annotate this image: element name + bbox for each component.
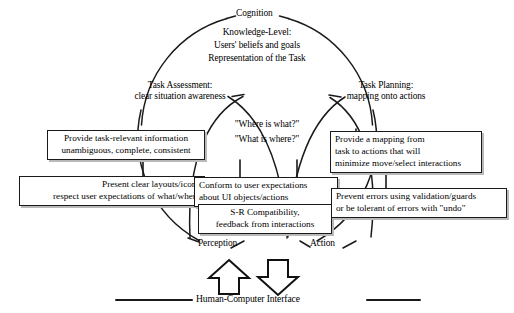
node-label-questions: "Where is what?" "What is where?" — [207, 117, 327, 146]
node-label-perception: Perception — [198, 238, 237, 248]
task-relevant-line-1: Provide task-relevant information — [52, 133, 200, 145]
arrow-down-shape — [258, 260, 298, 295]
task-planning-line-2: mapping onto actions — [336, 91, 436, 102]
box-conform-to-user-expectations: Conform to user expectations about UI ob… — [194, 177, 338, 207]
task-relevant-line-2: unambiguous, complete, consistent — [52, 145, 200, 157]
mapping-line-1: Provide a mapping from — [335, 134, 477, 146]
cognition-tick-right — [280, 16, 289, 19]
box-provide-task-relevant-information: Provide task-relevant information unambi… — [47, 130, 205, 160]
conform-line-2: about UI objects/actions — [199, 192, 333, 204]
node-label-task-assessment: Task Assessment: clear situation awarene… — [126, 80, 234, 103]
action-stub-left — [300, 241, 310, 247]
knowledge-line-1: Knowledge-Level: — [187, 26, 327, 39]
cognition-tick-left — [227, 16, 236, 19]
box-prevent-errors: Prevent errors using validation/guards o… — [331, 188, 507, 218]
task-planning-line-1: Task Planning: — [336, 80, 436, 91]
question-line-1: "Where is what?" — [207, 117, 327, 132]
action-stub-right — [343, 241, 356, 248]
task-assessment-line-1: Task Assessment: — [126, 80, 234, 91]
box-provide-mapping-task-to-actions: Provide a mapping from task to actions t… — [330, 131, 482, 173]
conform-line-1: Conform to user expectations — [199, 180, 333, 192]
mapping-line-3: minimize move/select interactions — [335, 158, 477, 170]
task-assessment-line-2: clear situation awareness — [126, 91, 234, 102]
arrow-up-shape — [209, 260, 249, 294]
box-sr-compatibility: S-R Compatibility, feedback from interac… — [198, 204, 332, 234]
node-label-human-computer-interface: Human-Computer Interface — [196, 294, 300, 304]
clear-layouts-line-2: respect user expectations of what/where — [24, 191, 200, 203]
clear-layouts-line-1: Present clear layouts/icons — [24, 179, 200, 191]
box-present-clear-layouts: Present clear layouts/icons respect user… — [19, 176, 205, 206]
knowledge-line-2: Users' beliefs and goals — [187, 39, 327, 52]
prevent-errors-line-2: or be tolerant of errors with "undo" — [336, 203, 502, 215]
diagram-canvas: Cognition Knowledge-Level: Users' belief… — [0, 0, 514, 313]
sr-compat-line-2: feedback from interactions — [203, 219, 327, 231]
knowledge-line-3: Representation of the Task — [187, 52, 327, 65]
sr-compat-line-1: S-R Compatibility, — [203, 207, 327, 219]
prevent-errors-line-1: Prevent errors using validation/guards — [336, 191, 502, 203]
node-label-action: Action — [310, 238, 335, 248]
mapping-line-2: task to actions that will — [335, 146, 477, 158]
node-label-cognition: Cognition — [236, 8, 273, 18]
node-label-knowledge-level: Knowledge-Level: Users' beliefs and goal… — [187, 26, 327, 65]
question-line-2: "What is where?" — [207, 132, 327, 147]
node-label-task-planning: Task Planning: mapping onto actions — [336, 80, 436, 103]
